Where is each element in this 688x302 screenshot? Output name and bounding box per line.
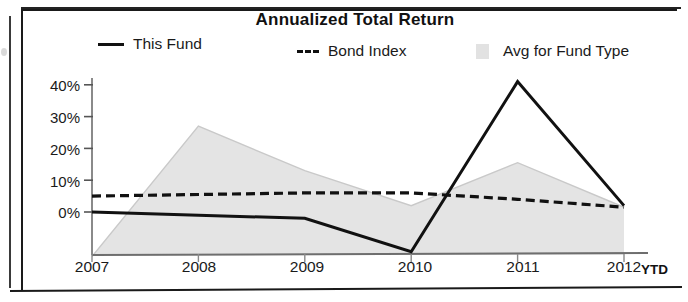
x-tick-label: 2012 — [607, 258, 641, 276]
x-tick-label: 2008 — [182, 258, 216, 276]
x-tick-label: 2011 — [506, 258, 539, 276]
x-tick-label: 2010 — [398, 258, 432, 276]
x-axis: 2007 2008 2009 2010 2011 2012 YTD — [0, 0, 688, 302]
x-tick-label: 2007 — [75, 258, 109, 276]
x-tick-label: 2009 — [290, 258, 324, 276]
annualized-total-return-chart: Annualized Total Return This Fund Bond I… — [0, 0, 688, 302]
x-axis-title: YTD — [641, 262, 668, 277]
